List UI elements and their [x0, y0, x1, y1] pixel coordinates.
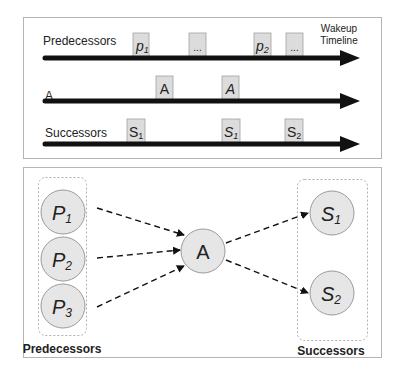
svg-text:A: A: [225, 81, 235, 97]
svg-text:...: ...: [193, 42, 201, 53]
svg-text:A: A: [196, 241, 210, 263]
event-box-a-2: A: [222, 76, 239, 100]
svg-text:A: A: [160, 81, 170, 97]
diagram-canvas: Wakeup Timeline Predecessors p1 ... p2 .…: [0, 0, 401, 379]
successors-group-label: Successors: [297, 344, 365, 358]
node-s2: S2: [310, 271, 354, 315]
timeline-axis-label-1: Wakeup: [321, 23, 358, 34]
event-box-s2: S2: [285, 119, 303, 143]
event-box-p1: p1: [133, 33, 149, 57]
node-a: A: [181, 229, 225, 273]
event-box-s1: S1: [127, 119, 145, 143]
event-box-ellipsis-1: ...: [189, 33, 206, 57]
svg-text:...: ...: [290, 42, 298, 53]
timeline-axis-label-2: Timeline: [320, 35, 358, 46]
row-label-successors: Successors: [45, 126, 107, 140]
event-box-ellipsis-2: ...: [286, 33, 303, 57]
row-label-predecessors: Predecessors: [43, 34, 116, 48]
node-p3: P3: [41, 284, 85, 328]
event-box-p2: p2: [254, 33, 271, 57]
node-s1: S1: [310, 191, 354, 235]
predecessors-group-label: Predecessors: [23, 342, 102, 356]
node-p2: P2: [41, 237, 85, 281]
event-box-s1-italic: S1: [222, 119, 240, 143]
event-box-a-1: A: [156, 76, 173, 100]
node-p1: P1: [41, 190, 85, 234]
